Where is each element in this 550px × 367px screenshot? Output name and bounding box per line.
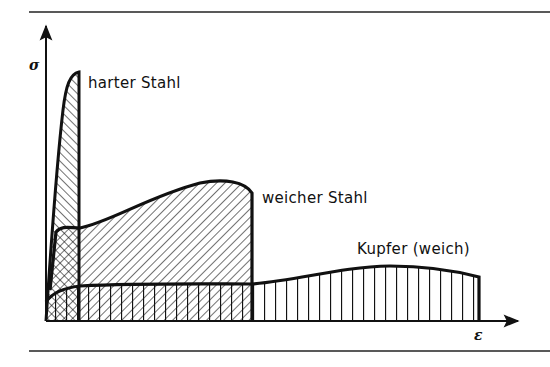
y-axis-label: σ [29, 57, 39, 73]
soft-steel-label: weicher Stahl [262, 189, 368, 207]
copper-label: Kupfer (weich) [357, 240, 470, 258]
x-axis-label: ε [474, 327, 483, 343]
stress-strain-diagram [0, 0, 550, 367]
hard-steel-label: harter Stahl [88, 74, 181, 92]
